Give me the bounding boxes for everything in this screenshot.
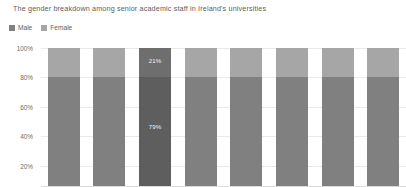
bar-column[interactable]: [276, 48, 308, 187]
bar-column[interactable]: [93, 48, 125, 187]
bar-value-label-female: 21%: [139, 57, 171, 65]
bar-segment-male[interactable]: [185, 77, 217, 187]
bar-segment-female[interactable]: [93, 48, 125, 77]
y-axis-tick-label: 100%: [17, 45, 33, 52]
bar-column[interactable]: [185, 48, 217, 187]
bar-value-label-male: 79%: [139, 123, 171, 131]
bar-segment-female[interactable]: [48, 48, 80, 77]
bar-group: 21%79%: [41, 48, 406, 187]
chart-title: The gender breakdown among senior academ…: [13, 4, 266, 14]
bar-column[interactable]: [322, 48, 354, 187]
bar-segment-male[interactable]: [48, 77, 80, 187]
bar-column[interactable]: [48, 48, 80, 187]
legend-label-male: Male: [18, 24, 32, 31]
legend-label-female: Female: [50, 24, 72, 31]
axis-baseline: [41, 186, 406, 187]
legend-swatch-female-icon: [41, 25, 47, 31]
bar-segment-male[interactable]: [367, 77, 399, 187]
bar-segment-male[interactable]: 79%: [139, 77, 171, 187]
bar-segment-male[interactable]: [230, 77, 262, 187]
y-axis-tick-label: 40%: [20, 133, 33, 140]
bar-segment-male[interactable]: [93, 77, 125, 187]
bar-segment-female[interactable]: [230, 48, 262, 77]
legend-item-male[interactable]: Male: [9, 24, 32, 31]
bar-segment-male[interactable]: [322, 77, 354, 187]
bar-column[interactable]: [367, 48, 399, 187]
plot-area: 21%79%: [41, 48, 406, 187]
y-axis: 100%80%60%40%20%: [0, 40, 38, 187]
bar-column[interactable]: 21%79%: [139, 48, 171, 187]
bar-segment-male[interactable]: [276, 77, 308, 187]
y-axis-tick-label: 60%: [20, 103, 33, 110]
legend-swatch-male-icon: [9, 25, 15, 31]
bar-segment-female[interactable]: [276, 48, 308, 77]
chart-container: The gender breakdown among senior academ…: [0, 0, 406, 187]
bar-segment-female[interactable]: [185, 48, 217, 77]
bar-segment-female[interactable]: 21%: [139, 48, 171, 77]
bar-segment-female[interactable]: [367, 48, 399, 77]
y-axis-tick-label: 80%: [20, 74, 33, 81]
bar-column[interactable]: [230, 48, 262, 187]
bar-segment-female[interactable]: [322, 48, 354, 77]
legend-item-female[interactable]: Female: [41, 24, 72, 31]
chart-legend: Male Female: [9, 24, 72, 31]
y-axis-tick-label: 20%: [20, 162, 33, 169]
